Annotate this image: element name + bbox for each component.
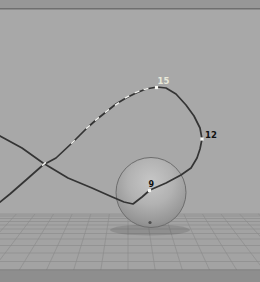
sphere-object[interactable] xyxy=(116,158,186,228)
front-band xyxy=(0,271,260,282)
frame-tick xyxy=(144,88,149,89)
sphere[interactable] xyxy=(116,158,186,228)
back-wall-band xyxy=(0,0,260,8)
sphere-pivot-dot xyxy=(148,221,151,224)
key-marker-15[interactable] xyxy=(155,86,158,89)
3d-viewport[interactable]: 91215 xyxy=(0,0,260,282)
key-marker-12[interactable] xyxy=(200,137,203,140)
viewport-canvas[interactable]: 91215 xyxy=(0,0,260,282)
key-label-15: 15 xyxy=(158,76,170,86)
key-marker-9[interactable] xyxy=(148,189,151,192)
key-label-9: 9 xyxy=(149,180,155,189)
key-label-12: 12 xyxy=(205,130,217,140)
back-wall-edge xyxy=(0,8,260,10)
